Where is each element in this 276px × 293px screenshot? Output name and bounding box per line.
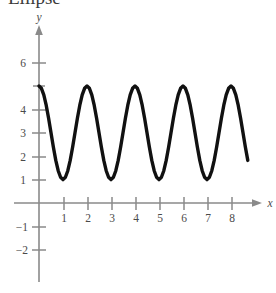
x-tick-label-5: 5 [157, 212, 163, 224]
x-tick-label-6: 6 [181, 212, 187, 224]
y-tick-label-3: 3 [20, 127, 26, 139]
y-axis-arrow-icon [35, 25, 43, 35]
x-axis-label: x [266, 197, 273, 209]
x-tick-label-4: 4 [133, 212, 139, 224]
x-tick-label-3: 3 [109, 212, 115, 224]
x-tick-label-1: 1 [61, 212, 67, 224]
y-tick-label-6: 6 [20, 57, 26, 69]
figure-container: Ellipse [0, 0, 276, 293]
x-tick-label-7: 7 [205, 212, 211, 224]
y-tick-label-4: 4 [20, 104, 26, 116]
y-tick-label-2: 2 [20, 151, 26, 163]
y-tick-label-neg2: −2 [16, 244, 28, 256]
y-tick-label-1: 1 [20, 174, 26, 186]
x-tick-label-8: 8 [229, 212, 235, 224]
y-tick-label-neg1: −1 [16, 221, 28, 233]
x-axis-arrow-icon [252, 199, 262, 207]
x-tick-label-2: 2 [85, 212, 91, 224]
y-axis-label: y [35, 11, 42, 24]
graph-canvas: 6 4 3 2 1 −1 −2 1 2 3 4 5 6 7 8 y x [0, 0, 276, 293]
sinusoid-curve [39, 86, 248, 180]
